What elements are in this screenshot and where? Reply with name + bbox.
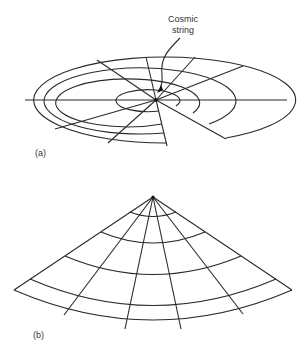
- cone-arc-4: [30, 279, 276, 306]
- diagram-canvas: [0, 0, 305, 357]
- ring-2: [56, 79, 200, 127]
- arrowhead-icon: [157, 85, 163, 93]
- cone-ray: [64, 197, 153, 315]
- annotation-line-1: Cosmic: [163, 14, 203, 25]
- panel-b-cone: [14, 195, 292, 329]
- cone-ray: [153, 197, 181, 329]
- panel-a-disk: [25, 38, 296, 146]
- spoke: [55, 100, 156, 129]
- cone-ray: [125, 197, 153, 329]
- panel-b-label: (b): [33, 330, 44, 340]
- annotation-line-2: string: [163, 25, 203, 36]
- cone-edge-left: [14, 197, 153, 290]
- cone-arc-3: [65, 256, 241, 275]
- cosmic-string-annotation: Cosmic string: [163, 14, 203, 36]
- cone-apex: [151, 195, 154, 198]
- cosmic-string-point: [154, 98, 158, 102]
- cone-arc-2: [101, 232, 205, 243]
- wedge-edge-left: [156, 100, 167, 146]
- wedge-edge-right: [156, 100, 226, 139]
- cone-edge-right: [153, 197, 292, 290]
- spoke: [146, 57, 156, 100]
- panel-a-label: (a): [35, 148, 46, 158]
- cone-arc-1: [130, 212, 176, 217]
- cone-ray: [153, 197, 243, 314]
